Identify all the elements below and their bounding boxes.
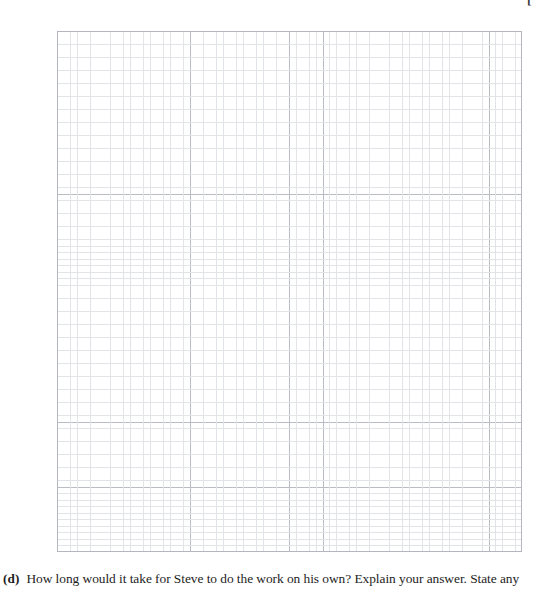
page-corner-mark: [ xyxy=(527,0,537,6)
graph-paper-grid xyxy=(57,31,522,552)
question-line: (d) How long would it take for Steve to … xyxy=(3,571,548,591)
question-label: (d) xyxy=(3,571,19,587)
question-text: How long would it take for Steve to do t… xyxy=(26,571,519,587)
